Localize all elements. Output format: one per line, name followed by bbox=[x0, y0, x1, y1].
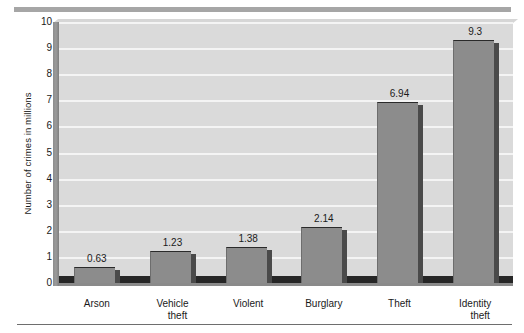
y-axis-tick-label: 4 bbox=[30, 174, 52, 184]
plot-area-floor bbox=[59, 276, 513, 283]
bar[interactable] bbox=[377, 102, 418, 283]
x-axis-category-label-line: Theft bbox=[388, 298, 411, 309]
x-axis-category-label-line: theft bbox=[156, 310, 188, 322]
bar-side-face bbox=[191, 254, 196, 283]
x-axis-category-label: Theft bbox=[388, 298, 411, 310]
x-axis-category-label: Vehicletheft bbox=[156, 298, 188, 322]
top-divider-rule bbox=[14, 7, 511, 12]
x-axis-category-label-line: Violent bbox=[233, 298, 263, 309]
bar-chart-figure: Number of crimes in millions 01234567891… bbox=[0, 0, 524, 333]
gridline bbox=[59, 22, 513, 24]
x-axis-category-label-line: Vehicle bbox=[156, 298, 188, 309]
gridline bbox=[59, 231, 513, 233]
y-axis-tick-label: 3 bbox=[30, 200, 52, 210]
x-axis-category-label-line: Identity bbox=[459, 298, 491, 309]
bar-value-label: 1.38 bbox=[238, 233, 257, 244]
bar-side-face bbox=[494, 43, 499, 283]
gridline bbox=[59, 126, 513, 128]
bottom-divider-rule bbox=[17, 324, 512, 325]
x-axis-category-label-line: Burglary bbox=[305, 298, 342, 309]
x-axis-category-label: Violent bbox=[233, 298, 263, 310]
y-axis-tick-label: 8 bbox=[30, 69, 52, 79]
bar-value-label: 1.23 bbox=[163, 237, 182, 248]
y-axis-tick-label: 2 bbox=[30, 226, 52, 236]
y-axis-tick-label: 5 bbox=[30, 148, 52, 158]
x-axis-category-label: Burglary bbox=[305, 298, 342, 310]
gridline bbox=[59, 74, 513, 76]
y-axis-tick-labels: 012345678910 bbox=[30, 22, 52, 283]
plot-area-floor-shadow bbox=[59, 283, 513, 286]
bar-value-label: 2.14 bbox=[314, 213, 333, 224]
bar-side-face bbox=[342, 230, 347, 283]
gridline bbox=[59, 48, 513, 50]
gridline bbox=[59, 205, 513, 207]
x-axis-category-label-line: Arson bbox=[84, 298, 110, 309]
bar-value-label: 9.3 bbox=[468, 26, 482, 37]
x-axis-category-label: Identitytheft bbox=[459, 298, 491, 322]
gridline bbox=[59, 153, 513, 155]
y-axis-tick-label: 0 bbox=[30, 278, 52, 288]
bar[interactable] bbox=[226, 247, 267, 283]
bar-side-face bbox=[267, 250, 272, 283]
y-axis-tick-label: 7 bbox=[30, 95, 52, 105]
bar-value-label: 6.94 bbox=[390, 88, 409, 99]
gridline bbox=[59, 257, 513, 259]
bar[interactable] bbox=[301, 227, 342, 283]
y-axis-tick-label: 10 bbox=[30, 17, 52, 27]
bar-side-face bbox=[418, 105, 423, 283]
plot-area bbox=[59, 22, 513, 283]
x-axis-category-label-line: theft bbox=[459, 310, 491, 322]
bar-side-face bbox=[115, 270, 120, 283]
y-axis-tick-label: 1 bbox=[30, 252, 52, 262]
bar-value-label: 0.63 bbox=[87, 253, 106, 264]
y-axis-tick-label: 6 bbox=[30, 121, 52, 131]
bar[interactable] bbox=[453, 40, 494, 283]
x-axis-category-label: Arson bbox=[84, 298, 110, 310]
gridline bbox=[59, 179, 513, 181]
bar[interactable] bbox=[150, 251, 191, 283]
y-axis-tick-label: 9 bbox=[30, 43, 52, 53]
bar[interactable] bbox=[74, 267, 115, 283]
gridline bbox=[59, 100, 513, 102]
